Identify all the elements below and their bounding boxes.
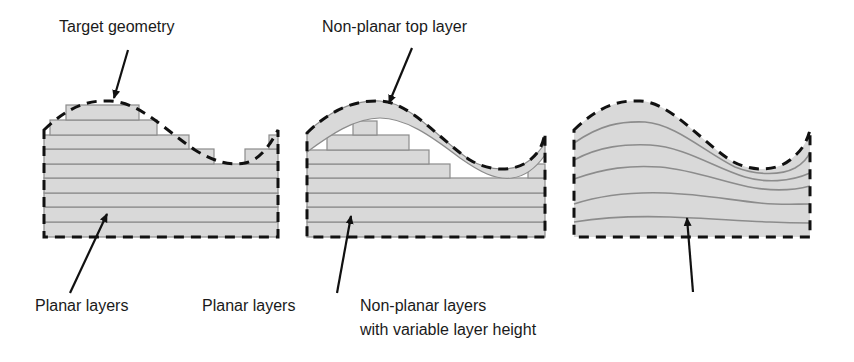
label-planar-layers-1: Planar layers <box>35 296 128 316</box>
panel-planar-layers <box>44 101 278 237</box>
label-target-geometry: Target geometry <box>59 17 175 37</box>
planar-layer-stack <box>44 105 278 237</box>
label-nonplanar-layers-line2: with variable layer height <box>360 320 536 340</box>
panel-nonplanar-top-layer <box>307 101 545 237</box>
panel-nonplanar-layers <box>574 101 810 237</box>
label-nonplanar-layers-line1: Non-planar layers <box>360 296 486 316</box>
planar-layer-stack <box>307 121 545 237</box>
arrow-nonplanar-top-layer <box>389 48 412 103</box>
arrow-target-geometry <box>114 50 128 98</box>
label-nonplanar-top-layer: Non-planar top layer <box>322 17 467 37</box>
label-planar-layers-2: Planar layers <box>202 296 295 316</box>
